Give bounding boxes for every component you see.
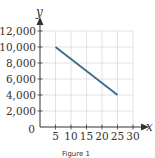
x-tick-label: 15	[80, 130, 93, 142]
y-tick-label: 2,000	[6, 105, 36, 117]
y-tick-label: 6,000	[6, 73, 36, 85]
y-tick-label: 12,000	[0, 25, 36, 37]
x-tick-label: 5	[52, 130, 59, 142]
ticks: 5101520253002,0004,0006,0008,00010,00012…	[0, 25, 140, 143]
figure-caption: Figure 1	[62, 150, 90, 158]
line-chart: 5101520253002,0004,0006,0008,00010,00012…	[0, 0, 155, 158]
x-tick-label: 20	[95, 130, 108, 142]
x-tick-label: 30	[126, 130, 139, 142]
y-tick-label: 0	[28, 123, 35, 135]
grid-lines	[40, 31, 133, 127]
y-tick-label: 4,000	[6, 89, 36, 101]
axes	[37, 17, 150, 131]
y-tick-label: 8,000	[6, 57, 36, 69]
x-tick-label: 25	[111, 130, 124, 142]
x-tick-label: 10	[64, 130, 77, 142]
y-axis-label: y	[35, 5, 43, 19]
y-tick-label: 10,000	[0, 41, 36, 53]
x-axis-label: x	[146, 120, 153, 134]
